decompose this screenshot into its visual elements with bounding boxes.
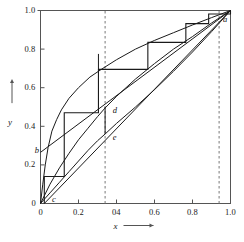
- y-axis-arrow-icon: [10, 79, 14, 103]
- plot-canvas: [0, 0, 244, 242]
- y-tick-label-1: 0.2: [25, 160, 36, 169]
- x-tick-label-3: 0.6: [149, 208, 160, 217]
- x-tick-label-4: 0.8: [187, 208, 198, 217]
- point-label-b: b: [35, 145, 39, 155]
- point-label-a: a: [223, 14, 227, 24]
- y-tick-label-0: 0: [32, 199, 36, 208]
- x-tick-label-5: 1.0: [225, 208, 236, 217]
- point-label-c: c: [52, 194, 56, 204]
- x-tick-label-1: 0.2: [73, 208, 84, 217]
- x-tick-label-0: 0: [39, 208, 43, 217]
- point-label-e: e: [113, 132, 117, 142]
- y-tick-label-5: 1.0: [25, 6, 36, 15]
- point-label-d: d: [113, 105, 117, 115]
- x-tick-label-2: 04: [112, 208, 121, 217]
- chord-line-c-to-a: [44, 11, 230, 204]
- y-tick-label-3: 0.6: [25, 83, 36, 92]
- y-tick-label-2: 0.4: [25, 122, 36, 131]
- chord-line-b-to-a: [41, 11, 231, 153]
- x-axis-arrow-icon: [124, 224, 154, 228]
- y-axis-title: y: [8, 117, 12, 127]
- x-axis-title: x: [114, 221, 118, 231]
- figure-container: 00.2040.60.81.000.20.40.60.81.0abcdexy: [0, 0, 244, 242]
- y-tick-label-4: 0.8: [25, 45, 36, 54]
